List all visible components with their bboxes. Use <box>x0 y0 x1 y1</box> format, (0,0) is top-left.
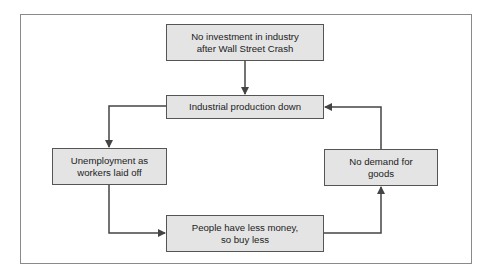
arrow-unemployment-to-less-money <box>109 185 165 233</box>
node-less-money: People have less money, so buy less <box>166 215 324 252</box>
node-production-down: Industrial production down <box>166 95 324 119</box>
arrow-production-to-unemployment <box>109 106 166 147</box>
arrow-no-demand-to-production <box>325 107 381 149</box>
node-no-investment: No investment in industry after Wall Str… <box>166 24 324 61</box>
arrow-less-money-to-no-demand <box>324 187 381 233</box>
node-no-demand: No demand for goods <box>324 149 438 186</box>
node-unemployment: Unemployment as workers laid off <box>52 148 167 185</box>
